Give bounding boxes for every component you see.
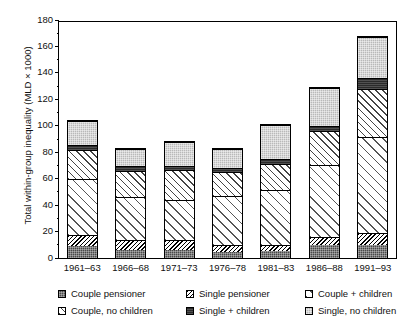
bar-segment-couple-no-children: [261, 164, 290, 190]
y-tick-label: 40: [42, 199, 53, 210]
legend-row: Couple pensionerSingle pensionerCouple +…: [58, 288, 405, 299]
bar-segment-couple-no-children: [116, 171, 145, 197]
bar-segment-couple-children: [68, 179, 97, 235]
tick-mark: [57, 218, 60, 219]
bar-segment-single-pensioner: [68, 235, 97, 247]
y-tick-label: 100: [37, 119, 53, 130]
y-axis-title: Total within-group inequality (MLD × 100…: [22, 16, 33, 256]
tick-mark: [57, 112, 60, 113]
legend-swatch-icon: [186, 307, 194, 315]
bar-segment-couple-children: [165, 200, 194, 240]
bar-segment-couple-pensioner: [310, 245, 339, 258]
bar-segment-couple-no-children: [68, 150, 97, 179]
legend-row: Couple, no childrenSingle + childrenSing…: [58, 305, 405, 316]
bar-segment-couple-children: [261, 190, 290, 245]
bar-segment-couple-pensioner: [68, 246, 97, 258]
bar-segment-couple-no-children: [310, 131, 339, 165]
bar-segment-single-pensioner: [116, 240, 145, 250]
bar-1981-83[interactable]: [260, 124, 291, 259]
legend-item-single-no-children[interactable]: Single, no children: [305, 305, 396, 316]
bar-segment-single-children: [68, 145, 97, 150]
y-tick-label: 0: [48, 252, 53, 263]
legend-label: Couple, no children: [71, 305, 153, 316]
bar-1976-78[interactable]: [212, 148, 243, 259]
tick-mark: [57, 33, 60, 34]
legend-item-couple-no-children[interactable]: Couple, no children: [58, 305, 186, 316]
tick-mark: [55, 20, 59, 21]
tick-mark: [57, 244, 60, 245]
bar-segment-couple-no-children: [213, 172, 242, 195]
bar-segment-single-no-children: [68, 121, 97, 144]
bar-segment-single-no-children: [213, 149, 242, 168]
legend-item-couple-children[interactable]: Couple + children: [305, 288, 392, 299]
legend-label: Single + children: [199, 305, 270, 316]
bar-segment-couple-no-children: [358, 89, 387, 138]
bar-segment-couple-pensioner: [165, 250, 194, 258]
y-tick-label: 20: [42, 225, 53, 236]
legend-label: Couple + children: [318, 288, 392, 299]
bar-1971-73[interactable]: [164, 141, 195, 259]
bar-segment-single-pensioner: [310, 237, 339, 245]
bar-segment-couple-pensioner: [358, 245, 387, 258]
y-tick-label: 180: [37, 14, 53, 25]
bar-segment-couple-children: [310, 165, 339, 237]
legend-swatch-icon: [305, 290, 313, 298]
bar-segment-single-children: [116, 166, 145, 171]
legend-item-single-children[interactable]: Single + children: [186, 305, 305, 316]
bar-segment-couple-no-children: [165, 170, 194, 200]
legend-label: Couple pensioner: [71, 288, 145, 299]
bar-1966-68[interactable]: [115, 148, 146, 259]
legend-swatch-icon: [58, 307, 66, 315]
bar-1986-88[interactable]: [309, 87, 340, 259]
legend-label: Single, no children: [318, 305, 396, 316]
bar-segment-single-pensioner: [165, 240, 194, 250]
legend-swatch-icon: [58, 290, 66, 298]
y-tick-label: 60: [42, 172, 53, 183]
bar-segment-single-no-children: [261, 125, 290, 159]
bar-segment-single-no-children: [310, 88, 339, 126]
y-tick-label: 80: [42, 146, 53, 157]
bar-segment-single-pensioner: [213, 245, 242, 252]
bar-segment-single-no-children: [116, 149, 145, 166]
legend-item-single-pensioner[interactable]: Single pensioner: [186, 288, 305, 299]
bar-segment-single-children: [261, 159, 290, 164]
bar-segment-couple-pensioner: [213, 252, 242, 258]
bar-segment-couple-pensioner: [261, 251, 290, 258]
bar-segment-couple-children: [116, 197, 145, 240]
bar-1991-93[interactable]: [357, 36, 388, 259]
y-tick-label: 140: [37, 66, 53, 77]
tick-mark: [55, 46, 59, 47]
tick-mark: [55, 178, 59, 179]
chart-legend: Couple pensionerSingle pensionerCouple +…: [58, 288, 405, 322]
legend-swatch-icon: [305, 307, 313, 315]
tick-mark: [55, 125, 59, 126]
bar-segment-single-pensioner: [261, 245, 290, 252]
tick-mark: [57, 165, 60, 166]
tick-mark: [57, 139, 60, 140]
bar-segment-couple-children: [358, 137, 387, 233]
bar-segment-single-children: [358, 78, 387, 88]
bar-segment-single-no-children: [165, 142, 194, 165]
tick-mark: [57, 59, 60, 60]
tick-mark: [55, 205, 59, 206]
bar-1961-63[interactable]: [67, 120, 98, 259]
bar-segment-single-children: [310, 126, 339, 131]
chart-figure: Total within-group inequality (MLD × 100…: [0, 0, 405, 332]
bar-segment-couple-children: [213, 196, 242, 245]
bar-segment-single-no-children: [358, 37, 387, 79]
tick-mark: [55, 152, 59, 153]
x-tick-label: 1991–93: [343, 262, 403, 273]
bar-segment-single-pensioner: [358, 233, 387, 245]
legend-swatch-icon: [186, 290, 194, 298]
bar-segment-single-children: [165, 166, 194, 170]
y-tick-label: 120: [37, 93, 53, 104]
tick-mark: [55, 231, 59, 232]
legend-item-couple-pensioner[interactable]: Couple pensioner: [58, 288, 186, 299]
tick-mark: [57, 191, 60, 192]
tick-mark: [55, 72, 59, 73]
legend-label: Single pensioner: [199, 288, 270, 299]
y-tick-label: 160: [37, 40, 53, 51]
tick-mark: [57, 86, 60, 87]
tick-mark: [55, 99, 59, 100]
bar-segment-couple-pensioner: [116, 250, 145, 258]
